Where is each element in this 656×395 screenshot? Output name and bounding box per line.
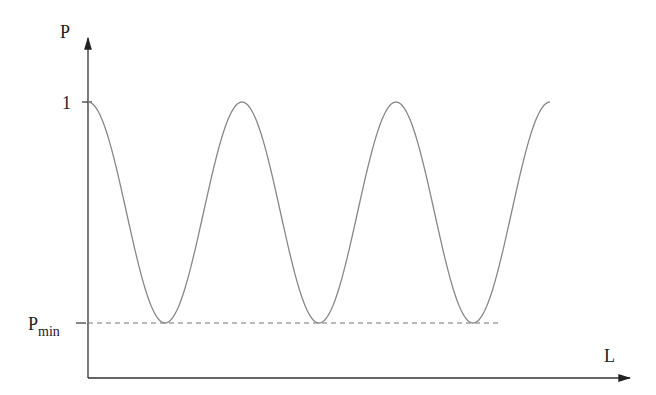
y-tick-label-pmin: Pmin (28, 314, 60, 339)
x-axis-label: L (604, 346, 615, 366)
oscillation-curve (88, 102, 550, 323)
chart: P L 1 Pmin (0, 0, 656, 395)
y-tick-label-1: 1 (62, 93, 71, 113)
y-axis-label: P (60, 22, 70, 42)
